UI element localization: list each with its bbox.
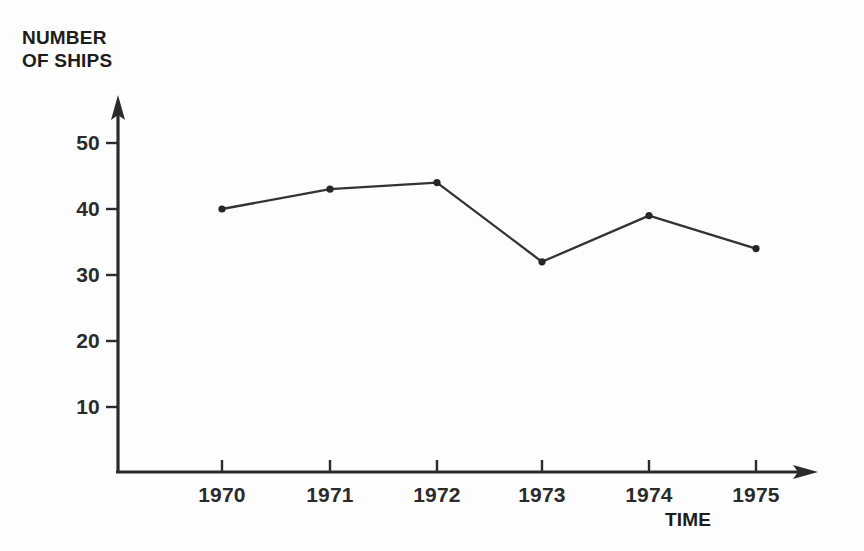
data-point-1971 — [326, 186, 333, 193]
y-tick-label-50: 50 — [58, 131, 100, 155]
line-chart-figure: NUMBEROF SHIPS 50 40 30 20 10 1970 1971 … — [0, 0, 864, 551]
data-point-1975 — [752, 245, 759, 252]
y-tick-label-20: 20 — [58, 329, 100, 353]
x-tick-label-1971: 1971 — [306, 483, 354, 507]
data-point-1973 — [538, 258, 545, 265]
y-tick-label-10: 10 — [58, 395, 100, 419]
x-axis-title: TIME — [665, 509, 711, 531]
x-tick-label-1975: 1975 — [732, 483, 780, 507]
data-series-line — [222, 183, 756, 262]
x-tick-label-1972: 1972 — [413, 483, 461, 507]
y-tick-label-30: 30 — [58, 263, 100, 287]
data-point-1972 — [433, 179, 440, 186]
x-tick-label-1973: 1973 — [518, 483, 566, 507]
plot-area — [0, 0, 864, 551]
y-tick-label-40: 40 — [58, 197, 100, 221]
x-tick-label-1974: 1974 — [625, 483, 673, 507]
data-point-1974 — [645, 212, 652, 219]
x-tick-label-1970: 1970 — [198, 483, 246, 507]
data-point-1970 — [218, 205, 225, 212]
